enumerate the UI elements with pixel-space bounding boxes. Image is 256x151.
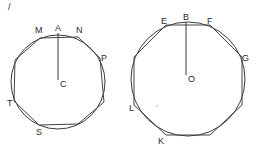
geometry-diagram: / A C M N P S T B O E F G K L <box>0 0 256 151</box>
label-C: C <box>60 79 67 89</box>
label-T: T <box>7 98 13 108</box>
label-M: M <box>35 25 43 35</box>
left-figure: A C M N P S T <box>7 23 107 137</box>
label-B: B <box>183 12 189 22</box>
right-figure: B O E F G K L <box>129 12 249 146</box>
corner-mark: / <box>8 2 11 12</box>
label-F: F <box>207 16 213 26</box>
label-S: S <box>36 127 42 137</box>
label-P: P <box>101 53 107 63</box>
label-K: K <box>158 136 164 146</box>
label-E: E <box>161 16 167 26</box>
label-N: N <box>76 25 83 35</box>
stray-dot <box>156 105 157 106</box>
label-G: G <box>242 53 249 63</box>
label-A: A <box>55 23 61 33</box>
label-L: L <box>129 103 134 113</box>
left-inscribed-polygon <box>14 37 104 125</box>
label-O: O <box>188 74 195 84</box>
